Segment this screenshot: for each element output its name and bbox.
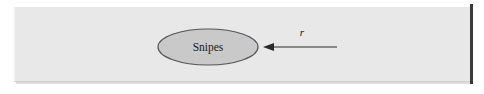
edge-r-arrow: r (263, 26, 337, 51)
r-arrow-head-icon (263, 43, 274, 51)
diagram-drawing: Snipes r (0, 0, 484, 94)
figure-canvas: Snipes r (0, 0, 484, 94)
r-arrow-label: r (300, 26, 305, 38)
node-snipes: Snipes (158, 29, 258, 65)
snipes-label: Snipes (193, 41, 224, 54)
